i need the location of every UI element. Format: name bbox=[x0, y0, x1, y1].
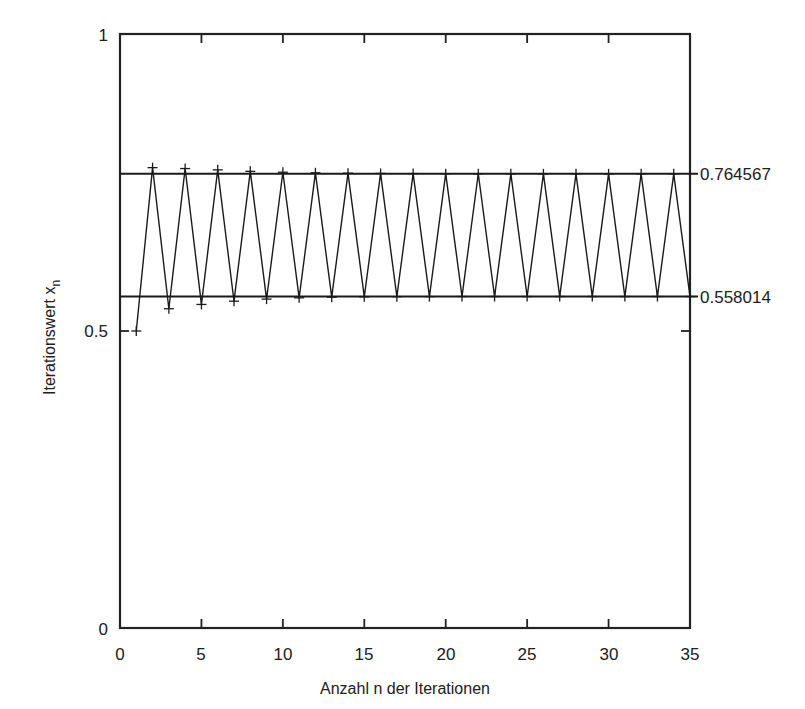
lower-level-label: 0.558014 bbox=[700, 288, 771, 307]
x-tick-label-5: 5 bbox=[196, 645, 205, 664]
x-tick-label-0: 0 bbox=[115, 645, 124, 664]
iteration-plot: 0 5 10 15 20 25 30 35 1 0.5 0 Anzahl n d… bbox=[0, 0, 805, 709]
y-axis-title-group: Iterationswert xn bbox=[41, 280, 63, 395]
upper-level-label: 0.764567 bbox=[700, 165, 771, 184]
x-tick-label-35: 35 bbox=[681, 645, 700, 664]
x-tick-label-10: 10 bbox=[274, 645, 293, 664]
x-tick-label-20: 20 bbox=[437, 645, 456, 664]
y-tick-label-0: 0 bbox=[99, 620, 108, 639]
y-tick-label-1: 1 bbox=[99, 26, 108, 45]
x-tick-label-25: 25 bbox=[518, 645, 537, 664]
x-tick-label-15: 15 bbox=[355, 645, 374, 664]
y-axis-title: Iterationswert xn bbox=[41, 280, 63, 395]
y-tick-label-0-5: 0.5 bbox=[84, 322, 108, 341]
x-tick-label-30: 30 bbox=[600, 645, 619, 664]
chart-figure: 0 5 10 15 20 25 30 35 1 0.5 0 Anzahl n d… bbox=[0, 0, 805, 709]
x-axis-title: Anzahl n der Iterationen bbox=[320, 680, 490, 697]
y-axis-title-main: Iterationswert x bbox=[41, 287, 58, 395]
y-axis-title-subscript: n bbox=[49, 280, 63, 287]
plot-frame bbox=[120, 34, 690, 628]
